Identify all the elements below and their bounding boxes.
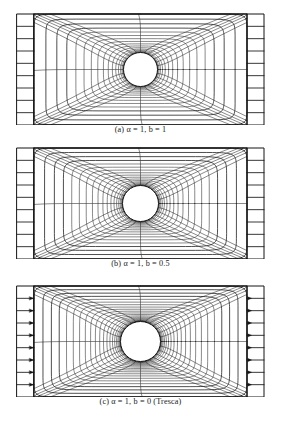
panel-c-mesh <box>0 272 281 397</box>
panel-b-mesh <box>0 134 281 259</box>
panel-b-caption: (b) α = 1, b = 0.5 <box>0 259 281 268</box>
panel-b: (b) α = 1, b = 0.5 <box>0 134 281 268</box>
panel-a-mesh <box>0 0 281 125</box>
panel-c-caption: (c) α = 1, b = 0 (Tresca) <box>0 397 281 406</box>
panel-c: (c) α = 1, b = 0 (Tresca) <box>0 272 281 406</box>
panel-a-caption: (a) α = 1, b = 1 <box>0 125 281 134</box>
figure-container: (a) α = 1, b = 1(b) α = 1, b = 0.5(c) α … <box>0 0 281 427</box>
panel-a: (a) α = 1, b = 1 <box>0 0 281 134</box>
